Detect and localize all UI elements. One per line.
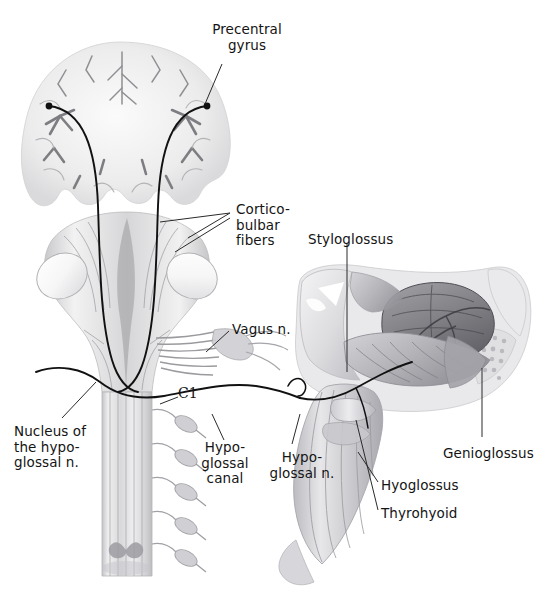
label-styloglossus: Styloglossus <box>308 232 408 248</box>
label-hypoglossal-n: Hypo- glossal n. <box>258 450 346 481</box>
label-hypoglossal-canal: Hypo- glossal canal <box>192 440 258 487</box>
label-c1: C1 <box>178 386 208 402</box>
label-hyoglossus: Hyoglossus <box>381 478 473 494</box>
label-vagus-n: Vagus n. <box>232 322 312 338</box>
label-nucleus-hypoglossal: Nucleus of the hypo- glossal n. <box>14 424 114 471</box>
cord-cut-end <box>102 561 150 575</box>
label-precentral-gyrus: Precentral gyrus <box>192 22 302 53</box>
anatomy-figure <box>0 0 545 594</box>
label-thyrohyoid: Thyrohyoid <box>381 506 473 522</box>
label-genioglossus: Genioglossus <box>443 446 543 462</box>
